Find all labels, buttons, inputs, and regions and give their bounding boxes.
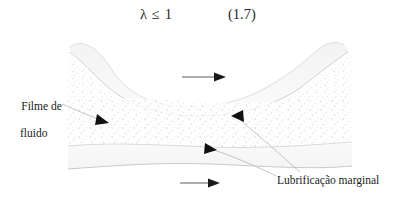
figure-page: λ ≤ 1 (1.7) [0, 0, 410, 198]
label-fluid-film-line2: fluido [4, 127, 62, 141]
label-fluid-film-line1: Filme de [21, 100, 62, 112]
label-boundary-lubrication: Lubrificação marginal [277, 174, 379, 188]
flow-arrow-top [182, 73, 226, 82]
lubrication-figure: Filme de fluido Lubrificação marginal [0, 0, 410, 198]
flow-arrow-bottom [180, 179, 220, 188]
label-fluid-film: Filme de fluido [4, 86, 62, 167]
